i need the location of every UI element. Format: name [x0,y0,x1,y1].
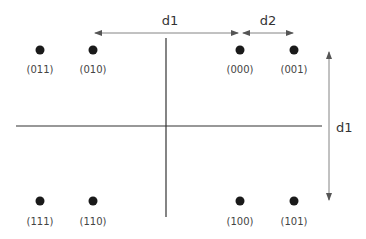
d1-horizontal-arrow: d1 [95,13,238,33]
point-001: (001) [281,46,308,76]
point-label: (001) [281,64,308,75]
point-dot [236,197,245,206]
point-label: (100) [227,216,254,227]
point-dot [290,46,299,55]
point-dot [36,197,45,206]
point-label: (111) [27,216,54,227]
point-label: (010) [80,64,107,75]
d1-horizontal-label: d1 [162,13,179,28]
point-dot [89,197,98,206]
point-label: (000) [227,64,254,75]
d1-vertical-arrow: d1 [329,52,353,200]
point-label: (110) [80,216,107,227]
d1-vertical-label: d1 [336,120,353,135]
point-111: (111) [27,197,54,228]
point-110: (110) [80,197,107,228]
point-010: (010) [80,46,107,76]
d2-horizontal-label: d2 [260,13,277,28]
point-dot [236,46,245,55]
point-dot [36,46,45,55]
point-dot [290,197,299,206]
point-101: (101) [281,197,308,228]
point-100: (100) [227,197,254,228]
point-dot [89,46,98,55]
d2-horizontal-arrow: d2 [243,13,293,33]
constellation-diagram: d1 d2 d1 (011) (010) (000) (001) (111) (… [0,0,366,239]
point-011: (011) [27,46,54,76]
point-label: (101) [281,216,308,227]
point-000: (000) [227,46,254,76]
point-label: (011) [27,64,54,75]
